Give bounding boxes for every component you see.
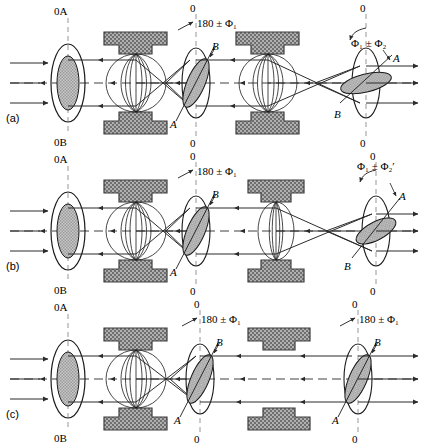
final-axis-A-a: A: [392, 52, 400, 64]
final-image-a: [339, 14, 394, 140]
intermediate-image-b: [176, 162, 214, 284]
intermediate-rotation-b: 180 ± Φ₁: [197, 165, 237, 177]
final-rotation-c: 180 ± Φ₁: [359, 313, 399, 325]
crossover2-b: [276, 208, 372, 254]
object-bottom-label-a: 0B: [54, 136, 67, 148]
panel-a: 0A 0B: [0, 0, 423, 150]
panel-c: 0A 0B: [0, 296, 423, 446]
intermediate-axis-A-b: A: [169, 266, 177, 278]
object-bottom-label-b: 0B: [54, 284, 67, 296]
intermediate-axis-B-a: B: [212, 40, 219, 52]
object-top-label-c: 0A: [54, 301, 68, 313]
final-axis-B-c: B: [374, 336, 381, 348]
intermediate-top-label-b: 0: [190, 150, 196, 162]
intermediate-rotation-a: 180 ± Φ₁: [197, 17, 237, 29]
final-image-b: [352, 162, 400, 288]
panel-label-b: (b): [6, 260, 19, 272]
final-rotation-b: Φ₁ ± Φ₂′: [357, 160, 395, 172]
final-image-c: [338, 310, 376, 436]
panel-label-c: (c): [6, 408, 19, 420]
intermediate-axis-A-c: A: [173, 414, 181, 426]
intermediate-image-a: [176, 14, 214, 136]
final-axis-A-b: A: [398, 190, 406, 202]
panel-c-diagram: 0A 0B: [0, 296, 423, 446]
final-rotation-a: Φ₁ ± Φ₂: [351, 37, 386, 49]
final-top-label-a: 0: [360, 2, 366, 14]
object-top-label-b: 0A: [54, 153, 68, 165]
final-bottom-label-c: 0: [352, 433, 358, 445]
final-axis-B-a: B: [334, 108, 341, 120]
intermediate-top-label-a: 0: [190, 2, 196, 14]
intermediate-top-label-c: 0: [194, 298, 200, 310]
final-top-label-c: 0: [352, 298, 358, 310]
intermediate-axis-A-a: A: [169, 118, 177, 130]
intermediate-axis-B-b: B: [212, 188, 219, 200]
object-bottom-label-c: 0B: [54, 432, 67, 444]
object-top-label-a: 0A: [54, 5, 68, 17]
intermediate-bottom-label-c: 0: [194, 433, 200, 445]
final-axis-B-b: B: [344, 260, 351, 272]
intermediate-image-c: [180, 310, 218, 432]
intermediate-rotation-c: 180 ± Φ₁: [201, 313, 241, 325]
intermediate-axis-B-c: B: [216, 336, 223, 348]
panel-b: 0A 0B: [0, 148, 423, 296]
panel-a-diagram: 0A 0B: [0, 0, 423, 150]
final-axis-A-c: A: [331, 414, 339, 426]
panel-label-a: (a): [6, 112, 19, 124]
panel-b-diagram: 0A 0B: [0, 148, 423, 298]
object-plane-c: [51, 314, 85, 428]
figure-canvas: 0A 0B: [0, 0, 423, 446]
object-plane-a: [51, 18, 85, 132]
object-plane-b: [51, 166, 85, 280]
